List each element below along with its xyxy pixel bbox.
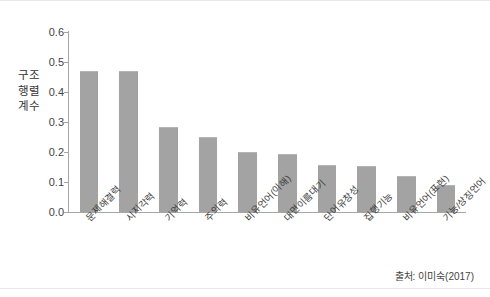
bar-series <box>69 32 466 212</box>
y-tick-mark <box>64 212 68 213</box>
y-tick-label: 0.2 <box>34 146 64 158</box>
figure-top-border <box>0 0 490 1</box>
y-axis-tick-labels: 0.60.50.40.30.20.10.0 <box>30 32 64 212</box>
y-tick-label: 0.4 <box>34 86 64 98</box>
y-tick-mark <box>64 182 68 183</box>
figure-bottom-border <box>0 288 490 289</box>
source-note: 출처: 이미숙(2017) <box>395 268 474 283</box>
y-tick-mark <box>64 62 68 63</box>
y-tick-mark <box>64 32 68 33</box>
y-tick-mark <box>64 122 68 123</box>
y-tick-label: 0.3 <box>34 116 64 128</box>
y-tick-mark <box>64 152 68 153</box>
y-tick-label: 0.5 <box>34 56 64 68</box>
y-tick-label: 0.6 <box>34 26 64 38</box>
y-tick-label: 0.1 <box>34 176 64 188</box>
y-tick-mark <box>64 92 68 93</box>
chart-figure: 구조 행렬 계수 0.60.50.40.30.20.10.0 문제해결력시지각력… <box>0 0 490 297</box>
bar <box>80 71 99 212</box>
